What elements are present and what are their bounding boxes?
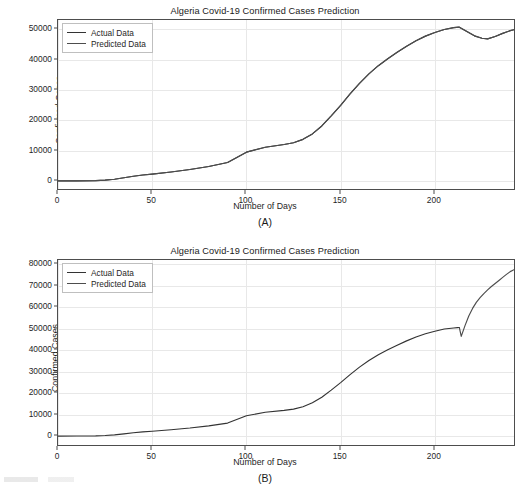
x-axis-label-a: Number of Days [0, 201, 530, 211]
y-tick-label: 0 [47, 175, 52, 185]
y-tick-label: 10000 [29, 409, 52, 419]
chart-title-a: Algeria Covid-19 Confirmed Cases Predict… [0, 6, 530, 16]
legend-item-predicted-b[interactable]: Predicted Data [67, 278, 146, 289]
legend-label-predicted-a: Predicted Data [91, 39, 146, 49]
y-tick-label: 10000 [29, 145, 52, 155]
y-tick-mark [54, 435, 58, 436]
y-tick-mark [54, 284, 58, 285]
y-tick-mark [54, 370, 58, 371]
y-tick-mark [54, 89, 58, 90]
y-tick-label: 70000 [29, 280, 52, 290]
y-tick-mark [54, 306, 58, 307]
plot-wrapper-b: Confirmed Cases 010000200003000040000500… [57, 259, 515, 446]
legend-line-swatch-predicted-b [67, 283, 86, 284]
x-tick-mark [339, 446, 340, 450]
x-tick-mark [245, 446, 246, 450]
legend-line-swatch-actual-a [67, 32, 86, 33]
y-tick-label: 0 [47, 430, 52, 440]
x-tick-mark [57, 190, 58, 194]
y-tick-mark [54, 327, 58, 328]
x-tick-mark [433, 190, 434, 194]
y-tick-label: 50000 [29, 23, 52, 33]
x-tick-mark [245, 190, 246, 194]
legend-label-actual-a: Actual Data [91, 28, 134, 38]
figure-panel-a: Algeria Covid-19 Confirmed Cases Predict… [0, 0, 530, 240]
legend-a[interactable]: Actual Data Predicted Data [62, 23, 153, 53]
y-tick-label: 40000 [29, 344, 52, 354]
legend-label-actual-b: Actual Data [91, 268, 134, 278]
x-tick-mark [433, 446, 434, 450]
y-tick-mark [54, 149, 58, 150]
y-tick-mark [54, 413, 58, 414]
x-tick-mark [339, 190, 340, 194]
y-tick-label: 20000 [29, 114, 52, 124]
page-edge-artifact [4, 477, 154, 482]
y-tick-mark [54, 58, 58, 59]
legend-line-swatch-actual-b [67, 272, 86, 273]
y-tick-mark [54, 392, 58, 393]
figure-panel-b: Algeria Covid-19 Confirmed Cases Predict… [0, 240, 530, 483]
y-tick-label: 20000 [29, 387, 52, 397]
legend-line-swatch-predicted-a [67, 43, 86, 44]
y-tick-mark [54, 119, 58, 120]
y-tick-mark [54, 263, 58, 264]
series-line-actual-data [58, 328, 459, 437]
x-tick-mark [151, 446, 152, 450]
plot-wrapper-a: Confirmed Cases 010000200003000040000500… [57, 19, 515, 190]
x-axis-label-b: Number of Days [0, 457, 530, 467]
y-tick-label: 30000 [29, 84, 52, 94]
legend-label-predicted-b: Predicted Data [91, 279, 146, 289]
x-tick-mark [151, 190, 152, 194]
x-tick-mark [57, 446, 58, 450]
y-tick-mark [54, 349, 58, 350]
y-tick-label: 50000 [29, 323, 52, 333]
y-tick-label: 60000 [29, 301, 52, 311]
legend-item-actual-b[interactable]: Actual Data [67, 267, 146, 278]
y-tick-mark [54, 180, 58, 181]
series-line-predicted-data [459, 270, 514, 337]
y-tick-label: 30000 [29, 366, 52, 376]
legend-b[interactable]: Actual Data Predicted Data [62, 263, 153, 293]
legend-item-predicted-a[interactable]: Predicted Data [67, 38, 146, 49]
y-tick-label: 80000 [29, 258, 52, 268]
panel-caption-a: (A) [0, 216, 530, 228]
chart-title-b: Algeria Covid-19 Confirmed Cases Predict… [0, 246, 530, 256]
y-tick-mark [54, 28, 58, 29]
y-tick-label: 40000 [29, 54, 52, 64]
legend-item-actual-a[interactable]: Actual Data [67, 27, 146, 38]
